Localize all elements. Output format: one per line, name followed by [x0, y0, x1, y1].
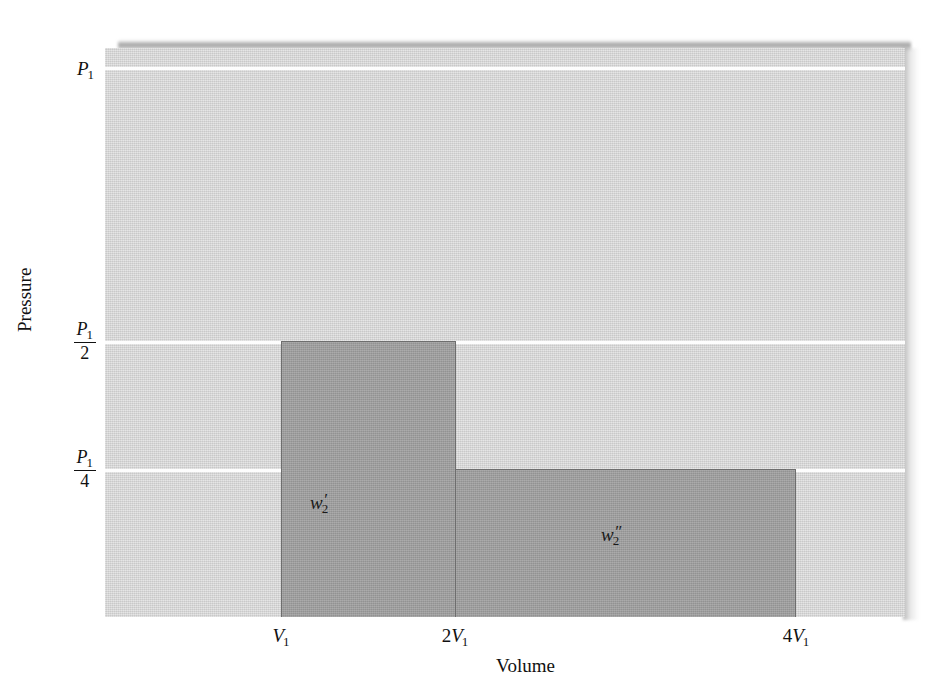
x-tick-4v1: 4V1: [761, 625, 831, 650]
work-label-step-1-prime: ′: [324, 490, 328, 509]
y-tick-p1-sub: 1: [88, 67, 95, 82]
plot-area: [105, 48, 905, 617]
x-tick-2v1-prefix: 2: [442, 625, 452, 646]
y-tick-p1-over-4-denominator: 4: [74, 471, 97, 490]
y-tick-p1-over-2: P1 2: [16, 320, 96, 363]
y-tick-p1-var: P: [77, 58, 89, 79]
y-tick-p1-over-2-numerator-var: P: [77, 319, 88, 339]
x-tick-2v1: 2V1: [420, 625, 490, 650]
x-tick-4v1-sub: 1: [803, 634, 810, 649]
pressure-volume-figure: Pressure P1 P1 2 P1 4 w2′ w2″ V1 2V1 4V1…: [0, 0, 951, 684]
y-tick-p1-over-2-numerator-sub: 1: [87, 327, 94, 342]
x-axis-title: Volume: [0, 655, 951, 677]
x-tick-v1-sub: 1: [283, 634, 290, 649]
y-tick-p1-over-4: P1 4: [16, 448, 96, 491]
y-tick-p1-over-2-numerator: P1: [74, 320, 97, 343]
work-label-step-1-var: w: [310, 492, 323, 513]
y-tick-p1: P1: [14, 58, 94, 83]
work-bar-step-2: [455, 469, 796, 617]
y-tick-p1-over-4-numerator: P1: [74, 448, 97, 471]
y-tick-p1-over-2-fraction: P1 2: [74, 320, 97, 363]
y-tick-p1-over-2-denominator: 2: [74, 343, 97, 362]
work-label-step-2-prime: ″: [615, 522, 622, 541]
gridline-p1: [105, 67, 905, 70]
x-tick-2v1-sub: 1: [462, 634, 469, 649]
work-label-step-2-var: w: [601, 524, 614, 545]
scan-bleed-top: [0, 4, 951, 44]
work-label-step-2: w2″: [601, 522, 622, 549]
y-tick-p1-over-4-fraction: P1 4: [74, 448, 97, 491]
work-bar-step-1: [281, 341, 456, 617]
plot-right-shadow: [903, 48, 919, 620]
y-tick-p1-over-4-numerator-sub: 1: [87, 455, 94, 470]
gridline-p1-over-2: [105, 341, 905, 344]
x-tick-v1: V1: [246, 625, 316, 650]
y-tick-p1-over-4-numerator-var: P: [77, 447, 88, 467]
x-tick-4v1-prefix: 4: [783, 625, 793, 646]
work-label-step-1: w2′: [310, 490, 328, 517]
